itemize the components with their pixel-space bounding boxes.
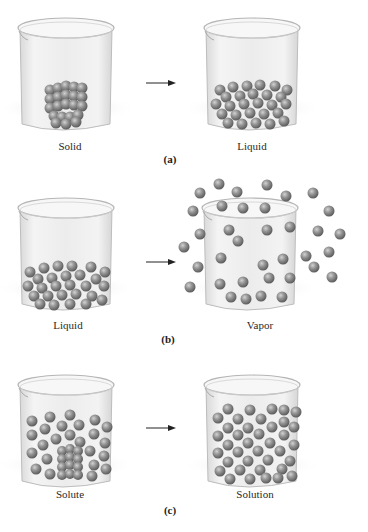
beaker-liquid-a [182, 18, 322, 130]
panel-letter-b: (b) [161, 333, 174, 345]
arrow-c [146, 425, 176, 431]
label-solute: Solute [56, 488, 84, 500]
panel-letter-c: (c) [164, 504, 176, 516]
solute-cluster [57, 444, 83, 480]
arrow-a [146, 80, 176, 86]
label-liquid-b: Liquid [53, 319, 82, 331]
label-solid: Solid [58, 140, 81, 152]
beaker-vapor [180, 198, 320, 310]
beaker-solute [0, 375, 136, 487]
diagram-canvas [0, 0, 368, 532]
beaker-solid [0, 18, 136, 130]
arrow-b [146, 259, 176, 265]
label-vapor: Vapor [247, 319, 273, 331]
particles-solid [45, 81, 88, 130]
panel-letter-a: (a) [164, 153, 177, 165]
label-solution: Solution [236, 488, 273, 500]
beaker-solution [182, 375, 322, 487]
label-liquid-a: Liquid [237, 140, 266, 152]
beaker-liquid-b [0, 198, 136, 311]
